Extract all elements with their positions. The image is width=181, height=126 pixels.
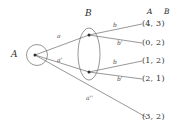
edge-label-a-double-prime: a'': [86, 95, 93, 101]
edge-label-b-top: b: [113, 22, 117, 28]
point-a-element: [34, 54, 37, 57]
pair-value: (1, 2): [142, 57, 165, 65]
pair-value: (0, 2): [142, 39, 165, 47]
edge-b-prime-bottom-line: [89, 72, 142, 79]
edge-label-b-prime-bottom: b': [117, 76, 123, 82]
edge-label-b-bottom: b: [113, 59, 117, 65]
pair-value: (3, 2): [142, 113, 165, 121]
edge-a-double-prime-line: [35, 55, 146, 117]
set-b-label: B: [85, 9, 92, 18]
edge-label-a-prime: a': [57, 57, 62, 63]
edge-b-prime-top-line: [89, 35, 142, 43]
pair-value: (2, 1): [142, 75, 165, 83]
relation-diagram-figure: A B a a' a'' b b' b b' A B (4, 3) (0, 2)…: [0, 0, 181, 126]
point-b-bottom-element: [88, 71, 91, 74]
set-a-label: A: [11, 50, 18, 59]
column-header-b: B: [164, 8, 170, 16]
edge-label-a: a: [57, 33, 61, 39]
point-b-top-element: [88, 34, 91, 37]
pair-value: (4, 3): [142, 20, 165, 28]
set-a-circle: [27, 45, 48, 66]
edge-label-b-prime-top: b': [117, 40, 123, 46]
column-header-a: A: [147, 8, 152, 16]
edge-a-line: [35, 35, 89, 55]
